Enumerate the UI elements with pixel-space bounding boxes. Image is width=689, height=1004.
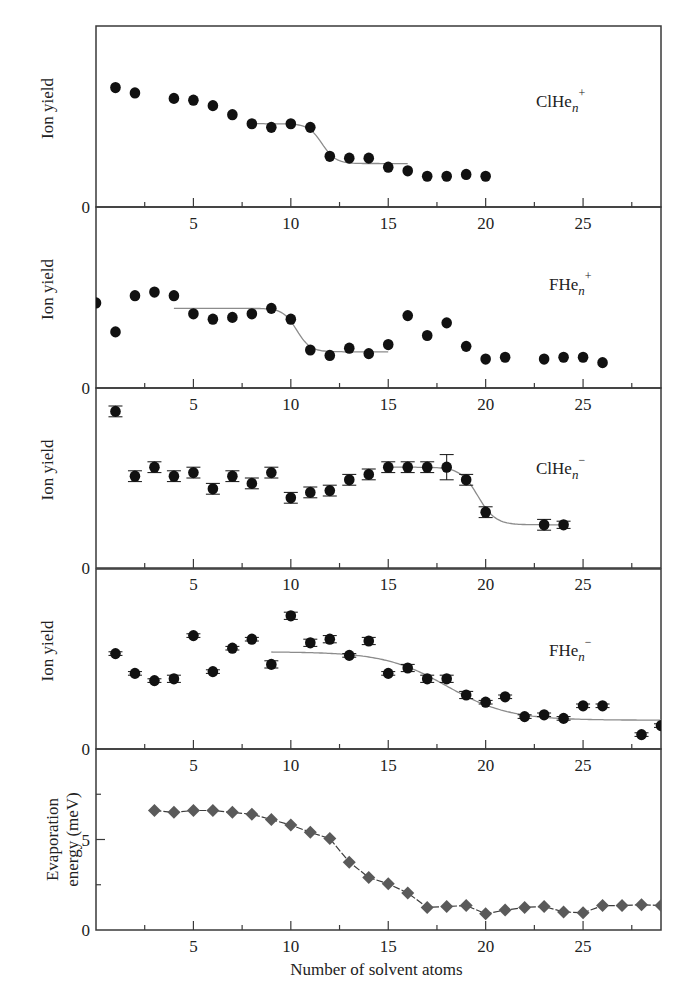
- data-point: [286, 314, 297, 325]
- data-point: [363, 153, 374, 164]
- data-point: [110, 406, 121, 417]
- data-point: [247, 308, 258, 319]
- data-point: [597, 357, 608, 368]
- x-tick-label: 10: [282, 214, 299, 233]
- x-tick-label: 25: [575, 575, 592, 594]
- plot-frame: [96, 207, 661, 388]
- data-point: [461, 689, 472, 700]
- y-tick-label: 0: [82, 559, 91, 578]
- data-point-diamond: [148, 804, 161, 817]
- x-tick-label: 15: [380, 395, 397, 414]
- data-point: [227, 109, 238, 120]
- data-point: [344, 343, 355, 354]
- y-tick-label: 0: [82, 921, 91, 940]
- data-point: [539, 709, 550, 720]
- data-point-diamond: [616, 899, 629, 912]
- series-label: ClHen+: [536, 86, 585, 115]
- x-tick-label: 5: [189, 214, 198, 233]
- data-point-diamond: [382, 877, 395, 890]
- series-label: ClHen−: [536, 453, 585, 482]
- y-axis-title: Ion yield: [38, 78, 57, 139]
- x-axis-title: Number of solvent atoms: [290, 960, 462, 979]
- data-point: [480, 507, 491, 518]
- panel-2: 5101520250Ion yieldFHen+: [38, 207, 661, 414]
- data-point: [344, 650, 355, 661]
- data-point: [363, 469, 374, 480]
- data-point-diamond: [538, 900, 551, 913]
- x-tick-label: 5: [189, 575, 198, 594]
- data-point: [266, 303, 277, 314]
- data-point-diamond: [499, 904, 512, 917]
- x-tick-label: 20: [477, 395, 494, 414]
- data-point: [149, 286, 160, 297]
- y-axis-title: Ion yield: [38, 439, 57, 500]
- data-point: [208, 483, 219, 494]
- data-point: [247, 634, 258, 645]
- y-axis-title: Ion yield: [38, 259, 57, 320]
- x-tick-label: 25: [575, 214, 592, 233]
- data-point: [597, 700, 608, 711]
- x-tick-label: 20: [477, 756, 494, 775]
- y-tick-label: 5: [82, 831, 91, 850]
- x-tick-label: 10: [282, 937, 299, 956]
- data-point-diamond: [362, 871, 375, 884]
- data-point-diamond: [343, 856, 356, 869]
- data-point: [169, 290, 180, 301]
- data-point: [363, 635, 374, 646]
- data-point: [480, 697, 491, 708]
- data-point: [500, 352, 511, 363]
- data-point: [305, 122, 316, 133]
- data-point: [558, 713, 569, 724]
- data-point: [130, 471, 141, 482]
- data-point-diamond: [460, 899, 473, 912]
- data-point: [169, 471, 180, 482]
- data-point: [519, 711, 530, 722]
- data-point: [461, 341, 472, 352]
- data-point: [558, 519, 569, 530]
- plot-area: [91, 286, 608, 368]
- data-point: [402, 462, 413, 473]
- data-point: [149, 462, 160, 473]
- data-point-diamond: [401, 886, 414, 899]
- data-point: [324, 350, 335, 361]
- data-point: [286, 610, 297, 621]
- data-point-diamond: [655, 899, 668, 912]
- data-point: [110, 82, 121, 93]
- x-tick-label: 15: [380, 937, 397, 956]
- data-point-diamond: [265, 813, 278, 826]
- data-point: [441, 673, 452, 684]
- chart-svg: 5101520250Ion yieldClHen+5101520250Ion y…: [0, 0, 689, 1004]
- panel-3: 5101520250Ion yieldClHen−: [38, 388, 661, 594]
- data-point-diamond: [206, 804, 219, 817]
- x-tick-label: 10: [282, 395, 299, 414]
- data-point: [130, 87, 141, 98]
- data-point: [110, 648, 121, 659]
- data-point: [247, 118, 258, 129]
- data-point: [422, 673, 433, 684]
- panel-1: 5101520250Ion yieldClHen+: [38, 26, 661, 233]
- plot-area: [108, 610, 668, 740]
- x-tick-label: 20: [477, 937, 494, 956]
- data-point: [305, 487, 316, 498]
- data-point: [383, 668, 394, 679]
- data-point: [656, 720, 667, 731]
- data-point: [169, 93, 180, 104]
- data-point: [402, 310, 413, 321]
- data-point: [383, 162, 394, 173]
- data-point: [208, 100, 219, 111]
- data-point: [500, 691, 511, 702]
- data-point: [130, 290, 141, 301]
- data-point: [422, 462, 433, 473]
- plot-frame: [96, 749, 661, 930]
- data-point: [324, 151, 335, 162]
- data-point: [266, 467, 277, 478]
- y-axis-title: energy (meV): [63, 792, 82, 887]
- data-point: [188, 95, 199, 106]
- data-point: [344, 474, 355, 485]
- data-point: [188, 308, 199, 319]
- data-point-diamond: [245, 808, 258, 821]
- data-point-diamond: [284, 819, 297, 832]
- data-point: [266, 659, 277, 670]
- data-point: [208, 666, 219, 677]
- data-point: [227, 471, 238, 482]
